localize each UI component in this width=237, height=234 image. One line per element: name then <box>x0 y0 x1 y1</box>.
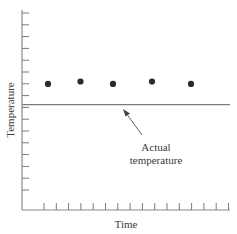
x-axis-label: Time <box>115 219 138 230</box>
data-point <box>149 78 155 84</box>
data-point <box>77 78 83 84</box>
y-axis-label: Temperature <box>5 82 16 137</box>
data-point <box>188 81 194 87</box>
y-axis-ticks <box>22 13 29 190</box>
annotation-label: Actual temperature <box>130 141 183 167</box>
annotation-line-1: Actual <box>130 141 183 154</box>
annotation-arrow-shaft <box>126 113 142 135</box>
annotation-line-2: temperature <box>130 154 183 167</box>
data-point <box>45 81 51 87</box>
x-axis-ticks <box>44 203 229 210</box>
annotation-arrow-head-icon <box>123 109 130 117</box>
data-point <box>110 81 116 87</box>
data-points <box>45 78 194 87</box>
chart-plot-area <box>0 0 237 234</box>
